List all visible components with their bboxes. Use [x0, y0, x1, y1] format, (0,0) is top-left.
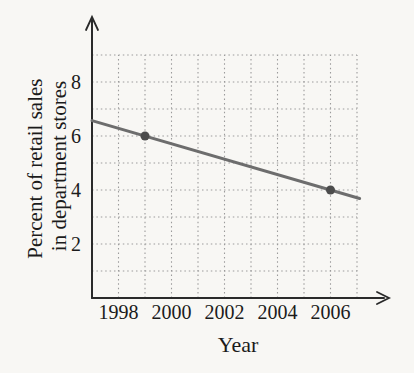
x-tick-label: 1998 [99, 301, 139, 323]
chart-figure: 199820002002200420062468 Year Percent of… [0, 0, 414, 373]
y-tick-label: 6 [71, 125, 81, 147]
x-tick-label: 2004 [258, 301, 298, 323]
data-point [326, 186, 335, 195]
y-axis-title-line2: in department stores [47, 81, 71, 251]
x-tick-label: 2000 [152, 301, 192, 323]
x-tick-label: 2002 [205, 301, 245, 323]
data-point [141, 132, 150, 141]
line-chart-canvas: 199820002002200420062468 Year Percent of… [0, 0, 414, 373]
x-tick-label: 2006 [311, 301, 351, 323]
y-tick-label: 8 [71, 71, 81, 93]
y-axis-title: Percent of retail sales in department st… [23, 73, 71, 258]
x-axis-title: Year [218, 332, 259, 357]
y-tick-label: 2 [71, 233, 81, 255]
y-tick-label: 4 [71, 179, 81, 201]
y-axis-title-line1: Percent of retail sales [23, 79, 47, 259]
